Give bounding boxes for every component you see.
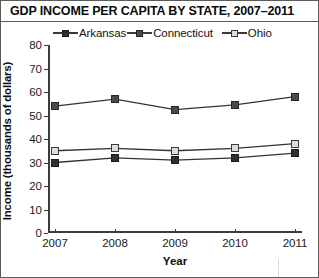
y-axis-tick-label: 10: [29, 204, 42, 216]
legend-marker-square-icon: [62, 30, 69, 37]
legend-marker-square-icon: [136, 30, 143, 37]
data-point-connecticut-2009: [171, 106, 179, 114]
data-point-connecticut-2007: [51, 102, 59, 110]
data-point-ohio-2010: [231, 144, 239, 152]
legend-line-icon: [127, 32, 136, 34]
x-axis-tick-label: 2008: [102, 237, 128, 249]
x-axis-tick-label: 2010: [222, 237, 248, 249]
legend-label-connecticut: Connecticut: [153, 27, 213, 39]
legend-line-icon: [238, 32, 247, 34]
data-point-ohio-2009: [171, 147, 179, 155]
x-axis-tick-label: 2011: [283, 237, 308, 249]
x-axis-title: Year: [48, 255, 302, 267]
legend-line-icon: [69, 32, 78, 34]
data-point-ohio-2007: [51, 147, 59, 155]
data-point-arkansas-2010: [231, 154, 239, 162]
y-axis-title-text: Income (thousands of dollars): [1, 62, 13, 220]
data-point-ohio-2011: [291, 140, 299, 148]
y-axis-tick-label: 60: [29, 86, 42, 98]
chart-legend: Arkansas Connecticut Ohio: [53, 25, 305, 41]
y-axis-tick-label: 30: [29, 157, 42, 169]
data-point-ohio-2008: [111, 144, 119, 152]
y-axis-tick-label: 20: [29, 180, 42, 192]
data-point-connecticut-2011: [291, 93, 299, 101]
scan-artifact-line: [278, 259, 279, 278]
legend-item-ohio: Ohio: [222, 27, 272, 39]
y-axis-tick-label: 50: [29, 110, 42, 122]
chart-figure: GDP INCOME PER CAPITA BY STATE, 2007–201…: [0, 0, 319, 278]
legend-line-icon: [143, 32, 152, 34]
data-point-arkansas-2007: [51, 159, 59, 167]
y-axis-tick-label: 80: [29, 39, 42, 51]
y-axis-tick-label: 70: [29, 63, 42, 75]
data-point-arkansas-2009: [171, 156, 179, 164]
chart-title-bar: GDP INCOME PER CAPITA BY STATE, 2007–201…: [1, 1, 318, 22]
legend-label-ohio: Ohio: [248, 27, 272, 39]
x-axis-tick-label: 2009: [162, 237, 188, 249]
data-point-connecticut-2008: [111, 95, 119, 103]
legend-line-icon: [222, 32, 231, 34]
series-lines: [48, 45, 302, 233]
y-axis-tick-label: 40: [29, 133, 42, 145]
data-point-connecticut-2010: [231, 101, 239, 109]
legend-marker-square-icon: [231, 30, 238, 37]
x-axis-tick-label: 2007: [42, 237, 68, 249]
legend-item-arkansas: Arkansas: [53, 27, 126, 39]
y-axis-title: Income (thousands of dollars): [0, 51, 15, 231]
data-point-arkansas-2011: [291, 149, 299, 157]
legend-item-connecticut: Connecticut: [127, 27, 213, 39]
plot-area: 01020304050607080 20072008200920102011: [48, 45, 302, 233]
chart-title: GDP INCOME PER CAPITA BY STATE, 2007–201…: [10, 4, 294, 18]
legend-label-arkansas: Arkansas: [79, 27, 126, 39]
y-axis-tick-label: 0: [36, 227, 42, 239]
y-axis-tick: [44, 233, 48, 234]
data-point-arkansas-2008: [111, 154, 119, 162]
legend-line-icon: [53, 32, 62, 34]
